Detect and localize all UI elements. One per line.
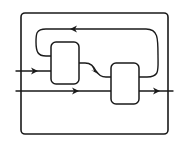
system-boundary: [21, 13, 168, 134]
block-diagram: [0, 0, 182, 141]
block-1: [51, 42, 79, 84]
block-2: [111, 63, 139, 104]
block1-to-block2-arrow-icon: [91, 66, 98, 74]
